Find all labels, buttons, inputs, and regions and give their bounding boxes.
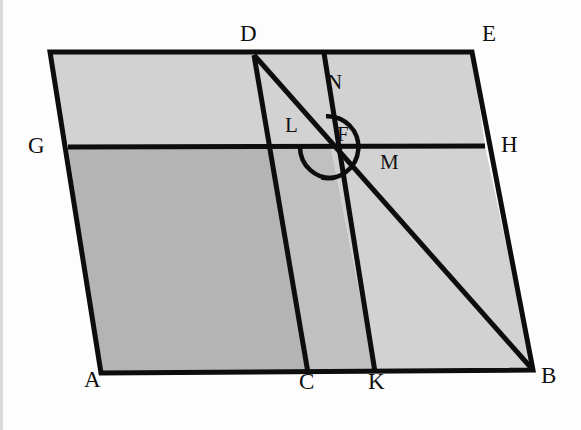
point-label-N: N bbox=[327, 72, 342, 93]
vertex-label-C: C bbox=[299, 370, 314, 393]
geometry-canvas bbox=[0, 0, 581, 430]
point-label-F: F bbox=[337, 124, 349, 145]
vertex-label-B: B bbox=[541, 364, 556, 387]
vertex-label-H: H bbox=[501, 133, 518, 156]
region-lower-left bbox=[68, 147, 308, 373]
vertex-label-K: K bbox=[368, 370, 385, 393]
vertex-label-A: A bbox=[84, 368, 101, 391]
vertex-label-E: E bbox=[482, 22, 496, 45]
vertex-label-D: D bbox=[240, 22, 257, 45]
point-label-L: L bbox=[285, 115, 298, 136]
point-label-M: M bbox=[380, 152, 399, 173]
segment-GH bbox=[68, 146, 485, 147]
geometry-figure: D E G H A B C K N L F M bbox=[0, 0, 581, 430]
vertex-label-G: G bbox=[28, 134, 45, 157]
